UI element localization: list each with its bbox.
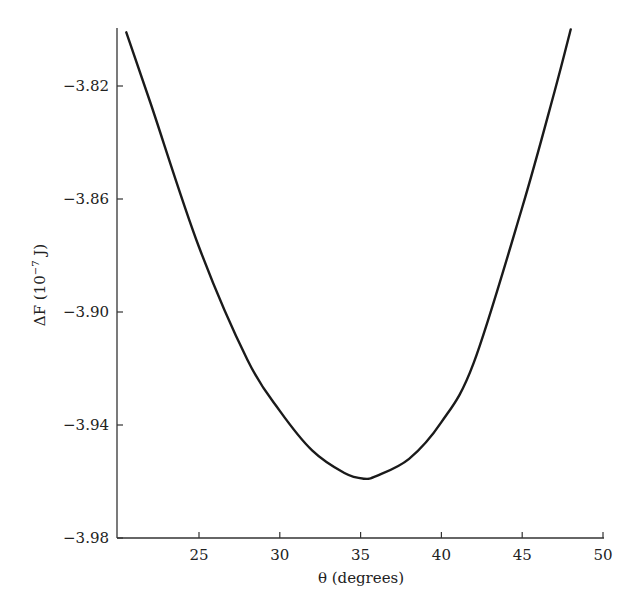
y-axis-title-suffix: J): [31, 244, 49, 261]
chart: 253035404550 −3.82−3.86−3.90−3.94−3.98 θ…: [0, 0, 634, 615]
y-axis-title-exponent: −7: [30, 260, 41, 275]
data-curve: [126, 30, 570, 479]
x-tick-label: 35: [351, 546, 370, 564]
axes: 253035404550 −3.82−3.86−3.90−3.94−3.98: [63, 28, 613, 564]
x-tick-label: 30: [270, 546, 289, 564]
x-tick-label: 25: [189, 546, 208, 564]
x-tick-label: 50: [593, 546, 612, 564]
x-axis-title: θ (degrees): [318, 569, 404, 587]
y-ticks: −3.82−3.86−3.90−3.94−3.98: [63, 77, 123, 547]
y-tick-label: −3.90: [63, 303, 109, 321]
y-tick-label: −3.94: [63, 416, 109, 434]
y-tick-label: −3.82: [63, 77, 109, 95]
y-tick-label: −3.86: [63, 190, 109, 208]
y-axis-title-prefix: ΔF (10: [31, 275, 49, 326]
y-axis-title: ΔF (10−7 J): [30, 244, 49, 326]
x-tick-label: 45: [513, 546, 532, 564]
x-tick-label: 40: [432, 546, 451, 564]
x-ticks: 253035404550: [189, 532, 612, 564]
y-tick-label: −3.98: [63, 529, 109, 547]
